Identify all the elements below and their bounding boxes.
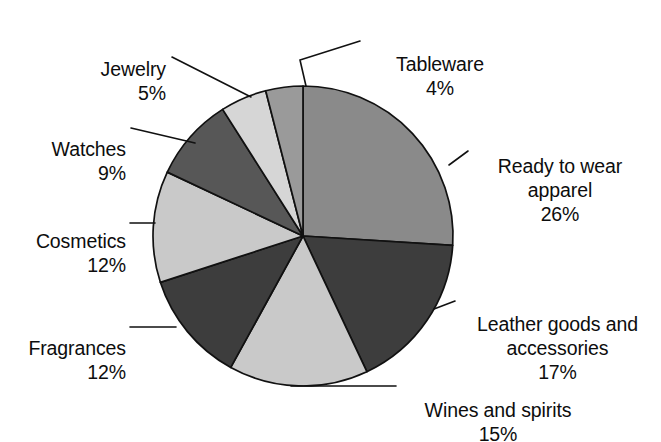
slice-label-wines-and-spirits-name: Wines and spirits bbox=[425, 399, 572, 421]
slice-label-cosmetics-name: Cosmetics bbox=[36, 230, 126, 252]
slice-label-ready-to-wear-apparel: Ready to wear apparel 26% bbox=[470, 130, 650, 250]
slice-label-ready-to-wear-apparel-name: Ready to wear apparel bbox=[498, 155, 622, 201]
slice-label-tableware-name: Tableware bbox=[396, 53, 484, 75]
slice-label-ready-to-wear-apparel-pct: 26% bbox=[470, 202, 650, 226]
slice-label-cosmetics: Cosmetics 12% bbox=[4, 205, 126, 301]
slice-label-jewelry-name: Jewelry bbox=[101, 58, 166, 80]
slice-label-wines-and-spirits-pct: 15% bbox=[398, 422, 598, 442]
slice-label-tableware-pct: 4% bbox=[365, 76, 515, 100]
slice-label-jewelry: Jewelry 5% bbox=[56, 33, 166, 129]
pie-slices-group bbox=[153, 86, 453, 386]
leader-line-tableware bbox=[300, 41, 360, 86]
slice-label-leather-goods-and-accessories-name: Leather goods and accessories bbox=[477, 313, 638, 359]
slice-label-fragrances: Fragrances 12% bbox=[6, 312, 126, 408]
leader-line-watches bbox=[131, 128, 195, 143]
pie-chart-figure: Tableware 4% Ready to wear apparel 26% L… bbox=[0, 0, 661, 442]
slice-label-fragrances-pct: 12% bbox=[6, 360, 126, 384]
slice-label-tableware: Tableware 4% bbox=[365, 28, 515, 124]
slice-label-watches-pct: 9% bbox=[14, 161, 126, 185]
slice-label-fragrances-name: Fragrances bbox=[28, 337, 126, 359]
slice-label-jewelry-pct: 5% bbox=[56, 81, 166, 105]
slice-label-wines-and-spirits: Wines and spirits 15% bbox=[398, 374, 598, 442]
leader-line-ready bbox=[449, 151, 468, 165]
slice-label-watches-name: Watches bbox=[52, 138, 126, 160]
slice-label-cosmetics-pct: 12% bbox=[4, 253, 126, 277]
leader-line-jewelry bbox=[172, 57, 251, 97]
